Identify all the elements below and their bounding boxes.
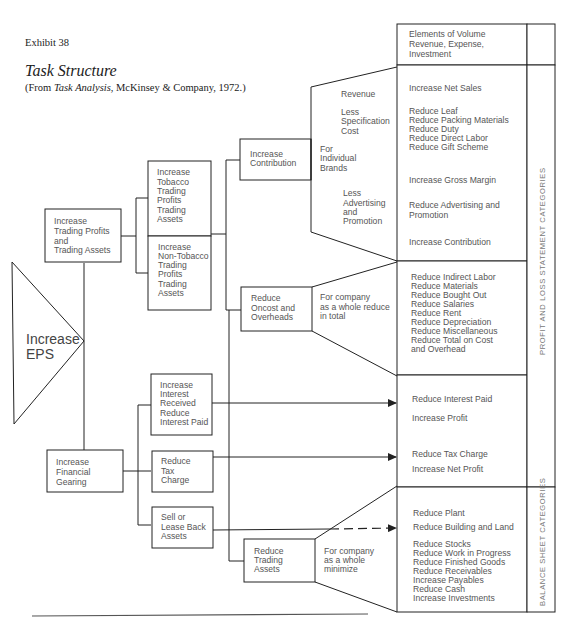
lease-arrow-dashed — [330, 528, 396, 529]
contribution-item: Increase Contribution — [409, 237, 491, 247]
svg-text:For company as a whole: For company as a whole minimize — [324, 546, 377, 574]
node-interest: Increase Interest Received Reduce Intere… — [151, 374, 212, 435]
node-increase-trading-profits: Increase Trading Profits and Trading Ass… — [45, 209, 121, 262]
node-increase-financial-gearing: Increase Financial Gearing — [47, 450, 123, 492]
plant-item: Reduce Plant — [413, 508, 465, 518]
side-header-cell — [527, 24, 555, 65]
funnel-revenue-label: Revenue — [341, 89, 376, 99]
node-non-tobacco-trading: Increase Non-Tobacco Trading Profits Tra… — [148, 236, 211, 310]
node-increase-contribution: Increase Contribution — [240, 139, 311, 180]
building-item: Reduce Building and Land — [413, 522, 514, 532]
financial-branch-connector — [123, 405, 151, 525]
node-sell-lease-back: Sell or Lease Back Assets — [152, 507, 213, 548]
funnel-company-total: For company as a whole reduce in total — [312, 262, 397, 376]
trading-branch-connector — [121, 198, 148, 273]
gross-margin-item: Increase Gross Margin — [409, 175, 496, 185]
node-tobacco-trading: Increase Tobacco Trading Profits Trading… — [148, 161, 211, 236]
node-reduce-oncost: Reduce Oncost and Overheads — [241, 287, 312, 331]
net-sales-item: Increase Net Sales — [409, 83, 482, 93]
elements-table: Elements of Volume Revenue, Expense, Inv… — [397, 24, 555, 612]
funnel-individual-brands: Revenue Less Specification Cost For Indi… — [311, 67, 397, 261]
pl-categories-label: PROFIT AND LOSS STATEMENT CATEGORIES — [538, 167, 547, 355]
brand-branch-connector — [211, 160, 241, 310]
funnel-spec-label: Less Specification Cost — [341, 107, 392, 136]
svg-text:For company as a whole: For company as a whole reduce in total — [320, 292, 392, 321]
funnel-advertising-label: Less Advertising and Promotion — [343, 188, 388, 226]
exhibit-page: Exhibit 38 Task Structure (From Task Ana… — [0, 0, 575, 630]
node-reduce-tax: Reduce Tax Charge — [152, 451, 213, 492]
node-reduce-trading-assets: Reduce Trading Assets — [244, 539, 315, 582]
task-structure-diagram: Elements of Volume Revenue, Expense, Inv… — [0, 0, 575, 630]
footer-rule — [32, 614, 368, 616]
assets-branch-connector — [229, 310, 244, 561]
funnel-scope-label: For Individual Brands — [320, 144, 359, 173]
contribution-elements-cell — [397, 65, 527, 261]
bs-categories-label: BALANCE SHEET CATEGORIES — [538, 478, 547, 606]
funnel-company-minimize: For company as a whole minimize — [315, 486, 397, 612]
root-node-increase-eps: Increase EPS — [12, 262, 84, 424]
lease-arrow-solid — [213, 529, 330, 530]
